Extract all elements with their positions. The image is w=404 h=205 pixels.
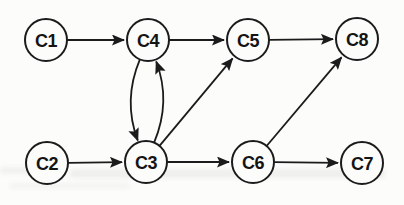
node-C4: C4 [127, 19, 169, 61]
node-label-C2: C2 [36, 154, 58, 174]
node-C6: C6 [232, 141, 274, 183]
node-label-C8: C8 [346, 30, 368, 50]
node-label-C3: C3 [135, 153, 157, 173]
dependency-graph-figure: C1C4C5C8C2C3C6C7 [0, 0, 404, 205]
node-C3: C3 [125, 141, 167, 183]
node-label-C7: C7 [351, 154, 373, 174]
node-C7: C7 [341, 142, 383, 184]
node-C8: C8 [336, 18, 378, 60]
node-label-C1: C1 [35, 31, 57, 51]
edge-C5-C8 [269, 39, 333, 40]
node-label-C4: C4 [137, 31, 159, 51]
node-C5: C5 [227, 19, 269, 61]
edge-C3-C5 [160, 58, 233, 145]
edge-C3-C4 [154, 62, 163, 143]
node-C1: C1 [25, 19, 67, 61]
edge-C2-C3 [68, 162, 122, 163]
edge-C6-C8 [267, 57, 342, 146]
node-label-C6: C6 [242, 153, 264, 173]
edge-C6-C7 [274, 162, 338, 163]
graph-svg: C1C4C5C8C2C3C6C7 [0, 0, 404, 205]
node-C2: C2 [26, 142, 68, 184]
edge-C4-C3 [131, 59, 140, 140]
node-label-C5: C5 [237, 31, 259, 51]
